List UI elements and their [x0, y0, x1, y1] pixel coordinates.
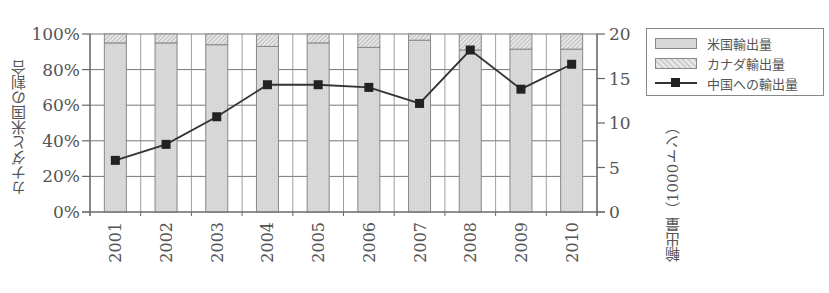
y-axis-right-label: 輸出量（1000トン） [662, 115, 683, 265]
y-tick-label-right: 20 [609, 24, 631, 44]
canada-bar [104, 34, 126, 43]
us-bar [256, 46, 278, 212]
square-marker-icon [314, 80, 323, 89]
us-bar [155, 43, 177, 212]
y-tick-label-left: 60% [42, 95, 80, 115]
legend-label-china: 中国への輸出量 [707, 74, 798, 93]
us-swatch-icon [655, 38, 697, 49]
x-tick-label: 2009 [512, 222, 531, 263]
y-tick-label-left: 100% [31, 24, 80, 44]
us-bar [358, 47, 380, 212]
square-marker-icon [567, 60, 576, 69]
square-marker-icon [212, 112, 221, 121]
canada-bar [510, 34, 532, 49]
legend-label-us: 米国輸出量 [707, 34, 772, 53]
canada-bar [409, 34, 431, 40]
square-marker-icon [263, 80, 272, 89]
us-bar [307, 43, 329, 212]
canada-bar [561, 34, 583, 49]
y-tick-label-right: 5 [609, 158, 620, 178]
x-tick-label: 2002 [157, 222, 176, 263]
square-marker-icon [364, 83, 373, 92]
square-marker-icon [516, 85, 525, 94]
legend: 米国輸出量 カナダ輸出量 中国への輸出量 [646, 28, 824, 96]
canada-bar [256, 34, 278, 46]
legend-item-china: 中国への輸出量 [655, 73, 798, 93]
x-tick-label: 2003 [208, 222, 227, 263]
x-tick-label: 2001 [106, 222, 125, 263]
x-tick-label: 2007 [411, 222, 430, 263]
y-tick-label-left: 0% [53, 202, 80, 222]
x-tick-label: 2010 [563, 222, 582, 263]
y-tick-label-right: 10 [609, 113, 631, 133]
us-bar [409, 40, 431, 212]
legend-item-us: 米国輸出量 [655, 33, 772, 53]
y-axis-left-label: カナダと米国の割合 [8, 40, 29, 215]
us-bar [459, 50, 481, 212]
canada-bar [155, 34, 177, 43]
y-tick-label-right: 15 [609, 69, 631, 89]
us-bar [206, 45, 228, 212]
y-tick-label-right: 0 [609, 202, 620, 222]
x-tick-label: 2004 [258, 222, 277, 263]
x-tick-label: 2005 [309, 222, 328, 263]
square-marker-icon [466, 46, 475, 55]
canada-bar [307, 34, 329, 43]
x-tick-label: 2008 [461, 222, 480, 263]
line-marker-icon [655, 77, 697, 89]
square-marker-icon [162, 140, 171, 149]
canada-swatch-icon [655, 58, 697, 69]
y-tick-label-left: 80% [42, 60, 80, 80]
us-bar [561, 49, 583, 212]
legend-label-canada: カナダ輸出量 [707, 54, 785, 73]
us-bar [510, 49, 532, 212]
square-marker-icon [415, 99, 424, 108]
x-tick-label: 2006 [360, 222, 379, 263]
canada-bar [206, 34, 228, 45]
y-tick-label-left: 20% [42, 166, 80, 186]
canada-bar [358, 34, 380, 47]
us-bar [104, 43, 126, 212]
y-tick-label-left: 40% [42, 131, 80, 151]
square-marker-icon [111, 156, 120, 165]
legend-item-canada: カナダ輸出量 [655, 53, 785, 73]
